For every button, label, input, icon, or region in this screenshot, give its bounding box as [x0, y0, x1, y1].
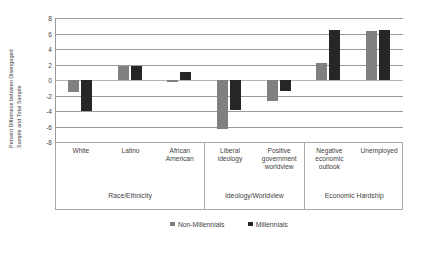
legend-swatch-icon — [170, 222, 175, 227]
bar — [167, 80, 178, 82]
category-label-line: Positive — [268, 147, 291, 154]
group-label: Ideology/Worldview — [205, 183, 304, 209]
group-label-row: Race/EthnicityIdeology/WorldviewEconomic… — [56, 183, 402, 209]
category-label-line: government — [262, 155, 297, 162]
bar — [379, 30, 390, 80]
bar — [217, 80, 228, 129]
y-axis-title: Percent Differnece between Disengaged Sa… — [0, 0, 34, 152]
bar — [329, 30, 340, 80]
category-label: Negativeeconomicoutlook — [305, 143, 355, 183]
y-axis-title-line1: Percent Differnece between Disengaged — [8, 49, 15, 148]
bar — [118, 66, 129, 80]
category-label-line: outlook — [319, 163, 340, 170]
bar — [267, 80, 278, 101]
bar — [280, 80, 291, 91]
category-label: Latino — [106, 143, 156, 183]
bar — [366, 31, 377, 80]
category-label: AfricanAmerican — [155, 143, 205, 183]
category-label: White — [56, 143, 106, 183]
category-label-line: Liberal — [220, 147, 240, 154]
chart-figure: Percent Differnece between Disengaged Sa… — [0, 0, 427, 257]
category-label: Positivegovernmentworldview — [255, 143, 305, 183]
legend-label: Millennials — [256, 221, 288, 228]
y-tick-label: 8 — [48, 15, 52, 22]
bar — [180, 72, 191, 80]
category-label-line: African — [169, 147, 190, 154]
category-label-line: Latino — [122, 147, 140, 154]
y-tick-label: -8 — [46, 139, 52, 146]
bar — [131, 66, 142, 80]
category-label-line: American — [166, 155, 194, 162]
legend-item: Millennials — [248, 221, 287, 228]
y-axis-title-line2: Sample and Total Sample — [16, 86, 23, 148]
bar — [230, 80, 241, 110]
y-tick-label: -6 — [46, 123, 52, 130]
y-tick-label: 6 — [48, 30, 52, 37]
category-label-line: Negative — [316, 147, 342, 154]
legend-item: Non-Millennials — [170, 221, 224, 228]
category-label-line: economic — [315, 155, 343, 162]
y-tick-label: 4 — [48, 46, 52, 53]
category-label-row: WhiteLatinoAfricanAmericanLiberalideolog… — [56, 143, 402, 183]
category-label-line: White — [72, 147, 89, 154]
y-tick-label: 0 — [48, 77, 52, 84]
group-label: Economic Hardship — [305, 183, 404, 209]
group-label: Race/Ethnicity — [56, 183, 205, 209]
category-label-line: ideology — [218, 155, 243, 162]
category-axis-table: WhiteLatinoAfricanAmericanLiberalideolog… — [55, 142, 403, 210]
bar — [68, 80, 79, 92]
chart-legend: Non-MillennialsMillennials — [55, 214, 403, 234]
legend-label: Non-Millennials — [178, 221, 224, 228]
bar — [81, 80, 92, 111]
category-label: Liberalideology — [205, 143, 255, 183]
bar-series-container — [55, 18, 403, 142]
y-tick-label: 2 — [48, 61, 52, 68]
plot-area — [55, 18, 403, 142]
y-tick-label: -2 — [46, 92, 52, 99]
bar — [316, 63, 327, 80]
legend-swatch-icon — [248, 222, 253, 227]
category-label-line: Unemployed — [361, 147, 398, 154]
category-label-line: worldview — [265, 163, 294, 170]
y-axis-tick-labels: 86420-2-4-6-8 — [34, 18, 52, 142]
y-tick-label: -4 — [46, 108, 52, 115]
category-label: Unemployed — [354, 143, 404, 183]
